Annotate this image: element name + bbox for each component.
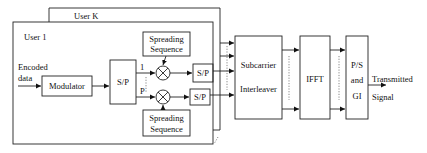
modulator-label: Modulator (42, 81, 92, 91)
spreading-top-label-2: Sequence (143, 44, 190, 54)
output-label-2: Signal (372, 92, 394, 102)
output-label-1: Transmitted (372, 74, 413, 84)
ofdm-cdma-transmitter-diagram: User K User 1 Encoded data Modulator S/P… (0, 0, 427, 153)
sp-bottom-label: S/P (190, 92, 210, 102)
spreading-bottom-label-1: Spreading (143, 113, 190, 123)
sp-top-label: S/P (193, 68, 213, 78)
ps-label-2: and (346, 75, 368, 85)
ifft-label: IFFT (300, 74, 330, 84)
ps-label-3: GI (346, 91, 368, 101)
interleaver-label-2: Interleaver (235, 84, 282, 94)
user-1-label: User 1 (24, 32, 46, 42)
sp-main-label: S/P (110, 77, 136, 87)
input-label-2: data (18, 73, 32, 83)
branch-1-label: 1 (140, 62, 144, 72)
input-label-1: Encoded (18, 62, 48, 72)
ps-label-1: P/S (346, 60, 368, 70)
interleaver-label-1: Subcarrier (235, 60, 282, 70)
spreading-bottom-label-2: Sequence (143, 124, 190, 134)
spreading-top-label-1: Spreading (143, 34, 190, 44)
branch-p-label: P (140, 86, 145, 96)
interleaver-box (235, 36, 282, 119)
user-k-label: User K (74, 11, 98, 21)
